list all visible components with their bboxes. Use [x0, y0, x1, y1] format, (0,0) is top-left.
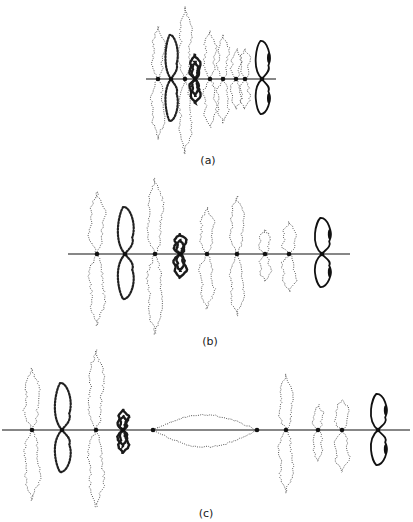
- lateral-loop: [282, 222, 297, 254]
- lateral-loop: [278, 374, 293, 430]
- lateral-loop: [281, 254, 297, 292]
- lateral-loop: [150, 79, 165, 140]
- loop-base-dot: [208, 77, 213, 82]
- loop-base-dot: [153, 252, 158, 257]
- dense-band: [267, 93, 271, 103]
- loop-base-dot: [123, 252, 128, 257]
- lateral-loop: [230, 196, 245, 254]
- lateral-loop: [88, 192, 106, 254]
- panel-label-a: (a): [200, 154, 215, 167]
- loop-base-dot: [316, 428, 321, 433]
- loop-base-dot: [234, 77, 239, 82]
- lateral-loop: [24, 430, 41, 501]
- lateral-loop: [312, 405, 324, 431]
- loop-base-dot: [235, 252, 240, 257]
- lateral-loop: [203, 79, 217, 128]
- condensed-loop: [174, 254, 188, 278]
- loop-base-dot: [183, 77, 188, 82]
- lateral-loop: [200, 208, 215, 254]
- chromosome-loop-diagram: [0, 0, 413, 522]
- loop-base-dot: [263, 252, 268, 257]
- loop-base-dot: [193, 77, 198, 82]
- loop-base-dot: [376, 428, 381, 433]
- loop-base-dot: [94, 428, 99, 433]
- loop-base-dot: [255, 428, 260, 433]
- loop-base-dot: [156, 77, 161, 82]
- condensed-loop-inner: [192, 62, 199, 79]
- lateral-loop: [203, 31, 217, 80]
- loop-base-dot: [121, 428, 126, 433]
- condensed-loop-inner: [176, 254, 183, 271]
- lateral-loop: [259, 254, 272, 282]
- lateral-loop: [230, 49, 241, 80]
- lateral-loop: [240, 79, 251, 109]
- lateral-loop: [199, 254, 216, 309]
- beaded-loop: [55, 383, 71, 430]
- lateral-loop: [334, 430, 350, 472]
- lateral-loop: [146, 254, 163, 335]
- loop-base-dot: [260, 77, 265, 82]
- lateral-loop: [230, 79, 241, 109]
- loop-base-dot: [243, 77, 248, 82]
- lateral-loop: [240, 49, 251, 80]
- dense-band: [328, 229, 332, 239]
- condensed-loop-inner: [120, 430, 127, 446]
- loop-base-dot: [60, 428, 65, 433]
- loop-base-dot: [221, 77, 226, 82]
- loop-base-dot: [151, 428, 156, 433]
- loop-base-dot: [340, 428, 345, 433]
- dense-band: [267, 53, 271, 63]
- lateral-loop: [278, 430, 294, 493]
- extended-horizontal-loop: [153, 414, 257, 447]
- loop-base-dot: [95, 252, 100, 257]
- loop-base-dot: [30, 428, 35, 433]
- lateral-loop: [88, 254, 106, 326]
- beaded-loop: [165, 79, 177, 121]
- loop-base-dot: [320, 252, 325, 257]
- loop-base-dot: [169, 77, 174, 82]
- loop-base-dot: [178, 252, 183, 257]
- lateral-loop: [259, 230, 271, 254]
- lateral-loop: [87, 430, 105, 507]
- loop-base-dot: [205, 252, 210, 257]
- beaded-loop: [165, 35, 177, 79]
- lateral-loop: [147, 178, 164, 254]
- lateral-loop: [334, 400, 349, 431]
- loop-base-dot: [287, 252, 292, 257]
- lateral-loop: [313, 430, 323, 461]
- lateral-loop: [88, 350, 105, 430]
- dense-band: [384, 405, 388, 415]
- panel-label-c: (c): [199, 507, 214, 520]
- condensed-loop-inner: [192, 79, 198, 96]
- beaded-loop: [118, 254, 134, 299]
- lateral-loop: [216, 35, 229, 80]
- beaded-loop: [55, 430, 71, 472]
- lateral-loop: [23, 368, 40, 430]
- lateral-loop: [217, 79, 230, 124]
- beaded-loop: [118, 207, 134, 254]
- lateral-loop: [151, 27, 165, 80]
- dense-band: [384, 444, 388, 454]
- dense-band: [328, 267, 332, 277]
- panel-label-b: (b): [202, 335, 218, 348]
- loop-base-dot: [284, 428, 289, 433]
- lateral-loop: [229, 254, 244, 316]
